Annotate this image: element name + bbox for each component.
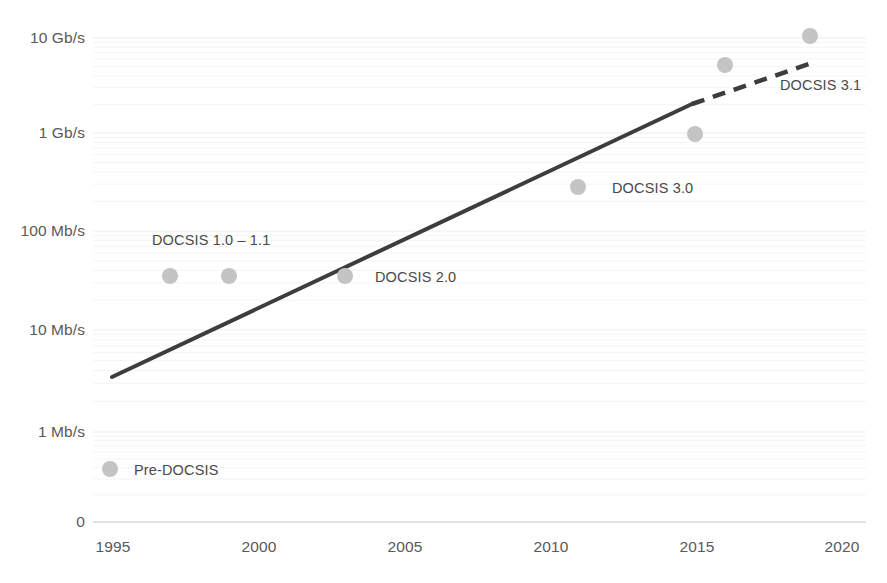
label-pre-docsis: Pre-DOCSIS xyxy=(134,462,219,478)
label-docsis-2: DOCSIS 2.0 xyxy=(375,269,456,285)
y-axis-tick-5: 0 xyxy=(76,513,85,531)
data-point-docsis-3-1-b xyxy=(717,57,733,73)
x-axis-tick-2: 2005 xyxy=(388,538,423,556)
y-axis-tick-4: 1 Mb/s xyxy=(38,423,85,441)
x-axis-tick-0: 1995 xyxy=(96,538,131,556)
docsis-speed-evolution-chart: 10 Gb/s1 Gb/s100 Mb/s10 Mb/s1 Mb/s0 1995… xyxy=(0,0,887,583)
label-docsis-1: DOCSIS 1.0 – 1.1 xyxy=(152,232,270,248)
chart-plot-area xyxy=(0,0,887,583)
y-axis-tick-1: 1 Gb/s xyxy=(39,124,85,142)
data-point-docsis-3-1-a xyxy=(687,126,703,142)
data-point-docsis-3-0 xyxy=(570,179,586,195)
gridlines xyxy=(93,38,866,522)
y-axis-tick-3: 10 Mb/s xyxy=(29,321,85,339)
label-docsis-3-0: DOCSIS 3.0 xyxy=(612,180,693,196)
data-point-docsis-3-1-c xyxy=(802,28,818,44)
label-docsis-3-1: DOCSIS 3.1 xyxy=(780,77,861,93)
y-axis-tick-0: 10 Gb/s xyxy=(30,29,85,47)
data-point-pre-docsis xyxy=(102,461,118,477)
x-axis-tick-4: 2015 xyxy=(680,538,715,556)
x-axis-tick-1: 2000 xyxy=(242,538,277,556)
y-axis-tick-2: 100 Mb/s xyxy=(20,222,85,240)
x-axis-tick-5: 2020 xyxy=(825,538,860,556)
data-point-docsis-1-0 xyxy=(162,268,178,284)
data-point-docsis-1-1 xyxy=(221,268,237,284)
data-point-docsis-2-0 xyxy=(337,268,353,284)
x-axis-tick-3: 2010 xyxy=(534,538,569,556)
